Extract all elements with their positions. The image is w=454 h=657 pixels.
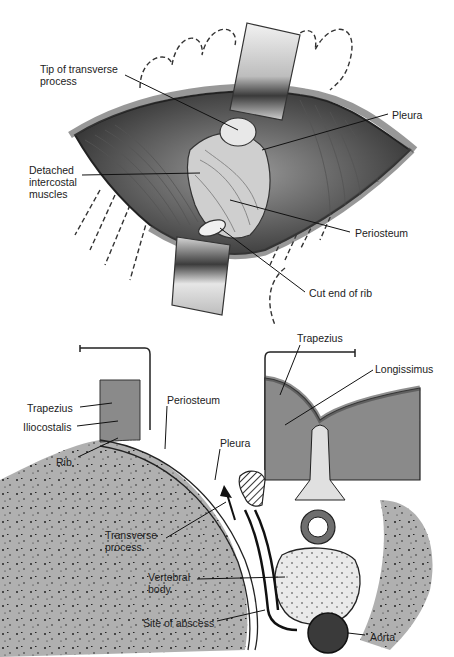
label-tip-of-transverse-process: Tip of transverse process xyxy=(40,63,118,87)
lung-field-right xyxy=(360,500,433,650)
label-pleura: Pleura xyxy=(392,109,422,121)
label-vertebral-body: Vertebral body xyxy=(148,571,190,595)
label-aorta: Aorta xyxy=(370,631,395,643)
label-rib: Rib xyxy=(56,456,72,468)
label-transverse-process: Transverse process xyxy=(105,529,157,553)
transverse-process-tip xyxy=(220,118,256,146)
label-trapezius-right: Trapezius xyxy=(297,332,343,344)
trapezius-left-muscle xyxy=(100,380,140,442)
transverse-process-hatched xyxy=(239,471,265,506)
label-pleura-bottom: Pleura xyxy=(220,437,250,449)
vertebral-body-shape xyxy=(275,548,360,624)
spine-cross-section-illustration xyxy=(0,330,454,657)
arrow-icon xyxy=(220,485,232,498)
aorta-vessel xyxy=(308,613,348,653)
label-site-of-abscess: Site of abscess xyxy=(143,617,214,629)
label-cut-end-of-rib: Cut end of rib xyxy=(309,287,372,299)
label-trapezius-left: Trapezius xyxy=(27,402,73,414)
surgical-exposure-illustration: Tip of transverse process Pleura Detache… xyxy=(0,0,454,330)
label-detached-intercostal-muscles: Detached intercostal muscles xyxy=(29,164,77,200)
lower-retractor xyxy=(172,237,230,315)
label-periosteum: Periosteum xyxy=(355,227,408,239)
label-periosteum-bottom: Periosteum xyxy=(167,394,220,406)
label-longissimus: Longissimus xyxy=(375,363,433,375)
cross-section-drawing xyxy=(0,330,454,657)
label-iliocostalis: Iliocostalis xyxy=(23,421,71,433)
